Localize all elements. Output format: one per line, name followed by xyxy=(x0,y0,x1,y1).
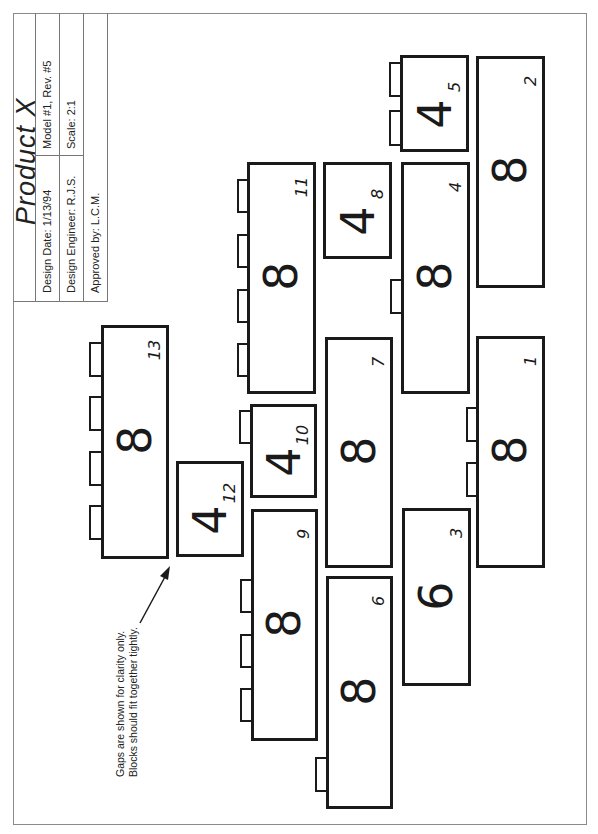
block-size-label: 8 xyxy=(258,262,304,291)
block-number-label: 1 xyxy=(523,356,539,366)
block-8: 48 xyxy=(323,162,392,259)
block-11: 811 xyxy=(247,162,316,394)
block-number-label: 4 xyxy=(448,182,464,192)
block-number-label: 8 xyxy=(370,189,386,199)
block-number-label: 6 xyxy=(371,596,387,606)
block-size-label: 4 xyxy=(261,447,307,476)
block-5: 45 xyxy=(400,55,469,152)
block-12: 412 xyxy=(176,461,244,557)
block-size-label: 8 xyxy=(336,676,382,705)
block-6: 86 xyxy=(326,576,393,809)
block-10: 410 xyxy=(250,404,317,498)
block-4: 84 xyxy=(401,162,470,394)
block-number-label: 2 xyxy=(523,76,539,86)
block-number-label: 3 xyxy=(449,528,465,538)
block-number-label: 13 xyxy=(147,340,163,360)
block-size-label: 8 xyxy=(412,262,458,291)
block-9: 89 xyxy=(251,509,318,741)
block-7: 87 xyxy=(325,337,393,568)
block-1: 81 xyxy=(476,336,545,568)
block-number-label: 12 xyxy=(222,483,238,503)
block-size-label: 6 xyxy=(413,582,459,611)
block-number-label: 7 xyxy=(371,357,387,367)
block-number-label: 10 xyxy=(295,425,311,445)
block-size-label: 8 xyxy=(336,436,382,465)
block-size-label: 8 xyxy=(487,156,533,185)
block-number-label: 11 xyxy=(294,177,310,197)
drawing-sheet: Product X Design Date: 1/13/94 Model #1,… xyxy=(0,0,598,834)
block-size-label: 8 xyxy=(261,609,307,638)
block-size-label: 4 xyxy=(335,207,381,236)
block-size-label: 8 xyxy=(487,436,533,465)
block-size-label: 8 xyxy=(112,426,158,455)
block-number-label: 5 xyxy=(447,82,463,92)
block-number-label: 9 xyxy=(296,529,312,539)
block-3: 63 xyxy=(402,508,471,686)
block-size-label: 4 xyxy=(412,100,458,129)
block-size-label: 4 xyxy=(187,505,233,534)
block-2: 82 xyxy=(476,56,545,288)
block-13: 813 xyxy=(101,325,169,559)
